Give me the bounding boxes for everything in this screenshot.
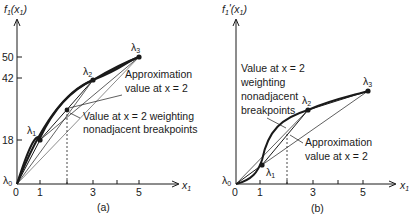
y-axis-label-b: f1'(x1) [222, 2, 247, 16]
approx-point-a [65, 108, 70, 113]
lambda-3-b: λ3 [363, 75, 372, 88]
annotation-nonadjacent-line3-b: nonadjacent [241, 90, 298, 102]
breakpoint-1-b [259, 162, 264, 167]
breakpoint-3-a [136, 54, 141, 59]
lambda-1-a: λ1 [27, 124, 36, 137]
caption-a: (a) [97, 201, 110, 213]
x-tick-label-0: 0 [13, 186, 19, 198]
leader-approx-b [290, 135, 303, 143]
figure: f1(x1) x1 0 1 3 5 18 42 50 [0, 0, 412, 220]
annotation-approx-line1-a: Approximation [125, 68, 192, 80]
annotation-approx-line2-b: value at x = 2 [305, 150, 368, 162]
annotation-approx-line1-b: Approximation [305, 136, 372, 148]
y-axis-label-a: f1(x1) [4, 3, 27, 16]
lambda-2-a: λ2 [83, 65, 92, 78]
x-tick-label-3: 3 [90, 186, 96, 198]
lambda-1-b: λ1 [266, 166, 275, 179]
lambda-2-b: λ2 [302, 94, 311, 107]
breakpoint-2-a [90, 77, 95, 82]
lambda-3-a: λ3 [131, 41, 140, 54]
x-axis-label-b: x1 [399, 179, 409, 192]
x-tick-label-5: 5 [136, 186, 142, 198]
y-tick-label-50: 50 [2, 51, 14, 63]
y-tick-label-18: 18 [2, 134, 14, 146]
lambda-0-a: λ0 [3, 174, 12, 187]
breakpoint-1-a [37, 137, 42, 142]
annotation-nonadjacent-line2-a: nonadjacent breakpoints [83, 123, 197, 135]
lambda-0-b: λ0 [222, 174, 231, 187]
breakpoint-2-b [305, 107, 310, 112]
y-ticks-a [17, 57, 22, 140]
x-ticks-a [40, 180, 139, 184]
x-tick-label-5: 5 [360, 186, 366, 198]
breakpoint-3-b [365, 88, 370, 93]
x-ticks-b [260, 180, 363, 184]
x-tick-label-1: 1 [257, 186, 263, 198]
annotation-nonadjacent-line1-b: Value at x = 2 [241, 62, 305, 74]
annotation-approx-line2-a: value at x = 2 [125, 82, 188, 94]
y-tick-label-42: 42 [2, 72, 14, 84]
x-tick-label-3: 3 [310, 186, 316, 198]
annotation-nonadjacent-line2-b: weighting [240, 76, 286, 88]
x-axis-label-a: x1 [181, 179, 191, 192]
annotation-nonadjacent-line1-a: Value at x = 2 weighting [83, 110, 194, 122]
x-tick-label-1: 1 [37, 186, 43, 198]
panel-a: f1(x1) x1 0 1 3 5 18 42 50 [2, 3, 197, 213]
annotation-nonadjacent-line4-b: breakpoints [241, 104, 295, 116]
leader-nonadjacent-a [70, 113, 80, 118]
panel-b: f1'(x1) x1 0 1 3 5 λ0 λ1 λ2 λ3 Value at … [222, 2, 409, 214]
caption-b: (b) [311, 202, 324, 214]
x-tick-label-0: 0 [232, 186, 238, 198]
